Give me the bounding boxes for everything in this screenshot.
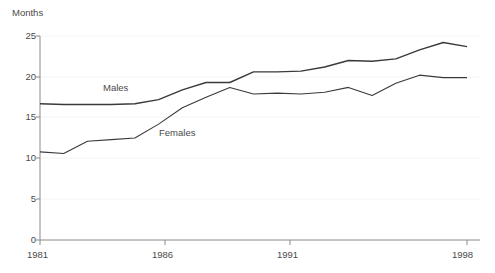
plot-area [0,0,495,273]
x-tick-label-1981: 1981 [27,250,48,260]
x-axis-ticks [40,240,467,245]
x-tick-label-1998: 1998 [452,250,473,260]
y-tick-label-20: 20 [14,72,36,82]
y-tick-label-10: 10 [14,153,36,163]
x-tick-label-1986: 1986 [152,250,173,260]
y-tick-label-15: 15 [14,112,36,122]
y-axis-title: Months [12,7,43,18]
y-tick-label-5: 5 [14,194,36,204]
line-chart: Months 25 20 15 10 5 0 1981 1986 1991 19… [0,0,495,273]
series-line-males [40,43,467,105]
gridlines [40,36,480,199]
x-tick-label-1991: 1991 [277,250,298,260]
y-tick-label-0: 0 [14,235,36,245]
axes [40,36,480,240]
series-label-females: Females [159,127,195,138]
series-label-males: Males [103,82,128,93]
y-axis-ticks [36,36,40,240]
y-tick-label-25: 25 [14,31,36,41]
chart-footnote [14,266,484,273]
